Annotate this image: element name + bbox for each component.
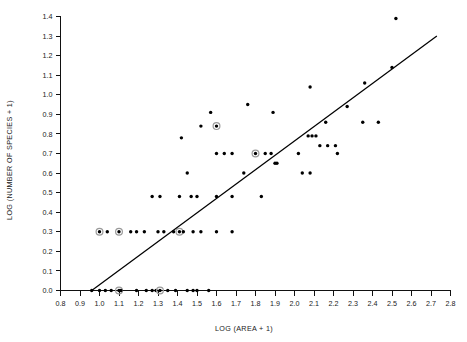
- data-point: [104, 289, 107, 292]
- data-point-layer: [90, 17, 398, 294]
- y-tick-label: 0.7: [43, 149, 53, 158]
- data-point: [199, 124, 202, 127]
- scatter-plot-figure: 0.00.10.20.30.40.50.60.70.80.91.01.11.21…: [0, 0, 467, 342]
- x-tick-label: 2.3: [348, 299, 358, 308]
- x-axis-ticks: 0.80.91.01.11.21.31.41.51.61.71.81.92.02…: [56, 291, 456, 308]
- data-point: [150, 289, 153, 292]
- data-point: [308, 85, 311, 88]
- data-point: [254, 152, 257, 155]
- data-point: [156, 230, 159, 233]
- data-point: [135, 230, 138, 233]
- data-point: [301, 171, 304, 174]
- x-tick-label: 1.7: [231, 299, 241, 308]
- y-tick-label: 1.0: [43, 90, 53, 99]
- plot-canvas: 0.00.10.20.30.40.50.60.70.80.91.01.11.21…: [0, 0, 467, 342]
- data-point: [106, 230, 109, 233]
- data-point: [334, 144, 337, 147]
- data-point: [195, 289, 198, 292]
- y-tick-label: 1.2: [43, 51, 53, 60]
- y-tick-label: 1.4: [43, 12, 53, 21]
- x-tick-label: 2.5: [387, 299, 397, 308]
- x-tick-label: 2.1: [309, 299, 319, 308]
- data-point: [180, 136, 183, 139]
- data-point: [326, 144, 329, 147]
- data-point: [230, 152, 233, 155]
- data-point: [189, 195, 192, 198]
- y-tick-label: 0.8: [43, 130, 53, 139]
- data-point: [174, 289, 177, 292]
- data-point: [297, 152, 300, 155]
- y-tick-label: 0.4: [43, 208, 53, 217]
- x-tick-label: 2.4: [368, 299, 378, 308]
- data-point: [166, 289, 169, 292]
- x-tick-label: 2.8: [446, 299, 456, 308]
- data-point: [230, 195, 233, 198]
- y-tick-label: 0.6: [43, 169, 53, 178]
- data-point: [207, 289, 210, 292]
- y-axis-ticks: 0.00.10.20.30.40.50.60.70.80.91.01.11.21…: [43, 12, 61, 295]
- data-point: [143, 230, 146, 233]
- data-point: [209, 111, 212, 114]
- data-point: [135, 289, 138, 292]
- data-point: [195, 195, 198, 198]
- data-point: [110, 289, 113, 292]
- data-point: [271, 111, 274, 114]
- y-tick-label: 1.3: [43, 32, 53, 41]
- data-point: [119, 289, 122, 292]
- y-tick-label: 0.3: [43, 227, 53, 236]
- data-point: [215, 124, 218, 127]
- data-point: [158, 289, 161, 292]
- x-tick-label: 2.2: [329, 299, 339, 308]
- y-axis-group: 0.00.10.20.30.40.50.60.70.80.91.01.11.21…: [43, 12, 61, 295]
- y-tick-label: 0.1: [43, 267, 53, 276]
- data-point: [242, 171, 245, 174]
- data-point: [246, 103, 249, 106]
- y-tick-label: 0.9: [43, 110, 53, 119]
- y-tick-label: 0.5: [43, 188, 53, 197]
- data-point: [150, 195, 153, 198]
- data-point: [178, 230, 181, 233]
- data-point: [345, 105, 348, 108]
- data-point: [186, 289, 189, 292]
- x-tick-label: 1.6: [212, 299, 222, 308]
- data-point: [162, 230, 165, 233]
- data-point: [117, 230, 120, 233]
- data-point: [158, 195, 161, 198]
- x-tick-label: 0.9: [75, 299, 85, 308]
- data-point: [318, 144, 321, 147]
- data-point: [98, 230, 101, 233]
- data-point: [223, 152, 226, 155]
- data-point: [215, 230, 218, 233]
- y-tick-label: 0.2: [43, 247, 53, 256]
- data-point: [178, 195, 181, 198]
- data-point: [394, 17, 397, 20]
- x-tick-label: 2.6: [407, 299, 417, 308]
- data-point: [215, 152, 218, 155]
- data-point: [314, 134, 317, 137]
- regression-trend-line: [92, 36, 437, 290]
- x-tick-label: 1.9: [270, 299, 280, 308]
- data-point: [324, 120, 327, 123]
- data-point: [260, 195, 263, 198]
- data-point: [306, 134, 309, 137]
- x-tick-label: 1.4: [173, 299, 183, 308]
- y-tick-label: 0.0: [43, 286, 53, 295]
- x-tick-label: 2.0: [290, 299, 300, 308]
- data-point: [264, 152, 267, 155]
- data-point: [269, 152, 272, 155]
- x-tick-label: 1.8: [251, 299, 261, 308]
- data-point: [336, 152, 339, 155]
- x-tick-label: 1.0: [95, 299, 105, 308]
- data-point: [363, 81, 366, 84]
- x-tick-label: 1.2: [134, 299, 144, 308]
- x-tick-label: 2.7: [426, 299, 436, 308]
- data-point: [186, 171, 189, 174]
- data-point: [275, 162, 278, 165]
- data-point: [191, 230, 194, 233]
- y-tick-label: 1.1: [43, 71, 53, 80]
- y-axis-title: LOG (NUMBER OF SPECIES + 1): [5, 100, 14, 220]
- data-point: [308, 171, 311, 174]
- data-point: [145, 289, 148, 292]
- x-axis-group: 0.80.91.01.11.21.31.41.51.61.71.81.92.02…: [56, 291, 456, 308]
- x-tick-label: 1.1: [114, 299, 124, 308]
